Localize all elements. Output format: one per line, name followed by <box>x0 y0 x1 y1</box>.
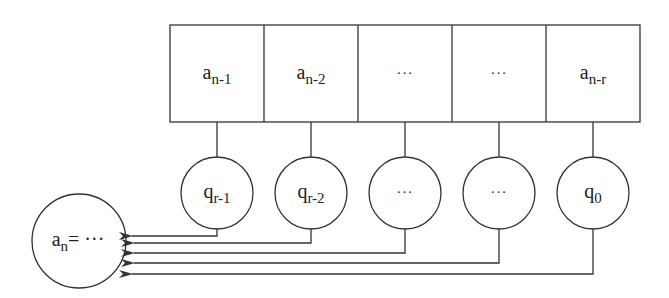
coefficient-label: qr-1 <box>203 180 230 207</box>
register-label: ··· <box>491 66 508 82</box>
register-label: an-2 <box>297 61 326 88</box>
coefficient-label: ··· <box>397 185 414 201</box>
feedback-arrow <box>132 229 217 236</box>
feedback-arrow <box>134 229 405 253</box>
coefficient-label: qr-2 <box>297 180 324 207</box>
coefficient-label: q0 <box>584 180 602 207</box>
register-label: an-r <box>580 61 606 88</box>
register-label: an-1 <box>203 61 232 88</box>
coefficient-label: ··· <box>491 185 508 201</box>
register-label: ··· <box>397 66 414 82</box>
feedback-arrow <box>134 229 499 263</box>
output-label: an= ··· <box>52 228 105 255</box>
